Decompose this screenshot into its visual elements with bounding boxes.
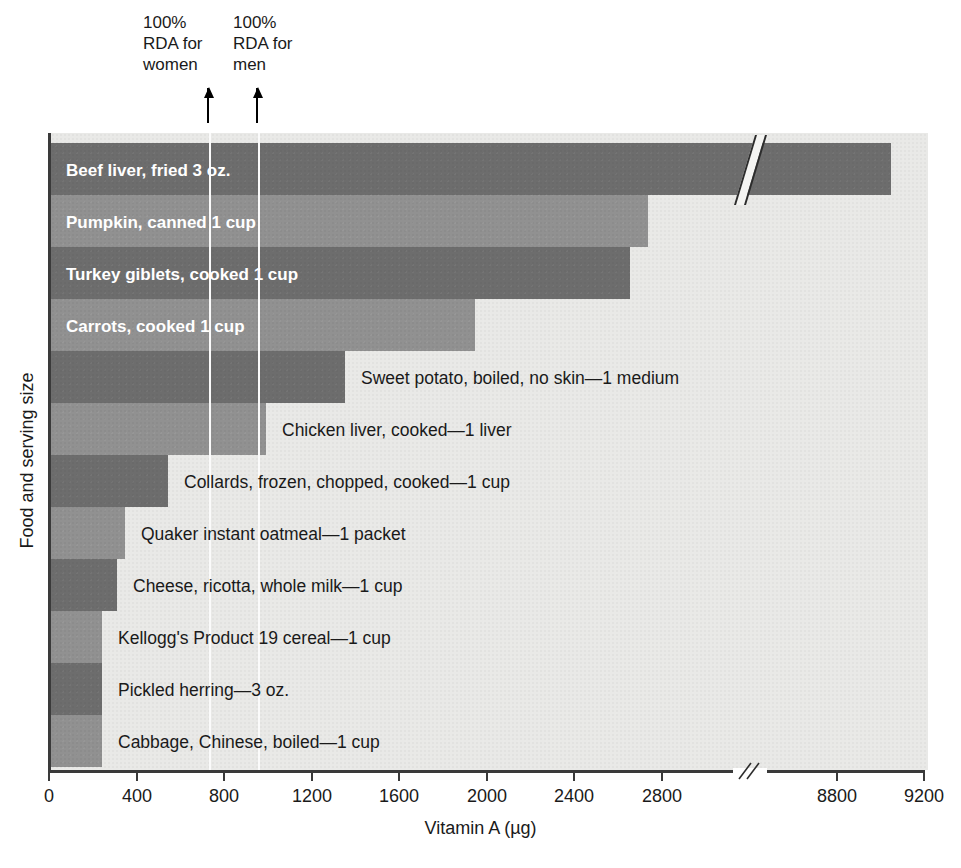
x-tick-label-2800: 2800 [642,786,682,807]
bar-sweet-potato [51,351,345,403]
bar-pickled-herring [51,663,102,715]
bar-label-pumpkin: Pumpkin, canned 1 cup [66,213,256,233]
rda-men-arrow [256,88,258,123]
bar-label-turkey-giblets: Turkey giblets, cooked 1 cup [66,265,298,285]
bar-collards [51,455,168,507]
x-tick-label-8800: 8800 [817,786,857,807]
bar-label-beef-liver: Beef liver, fried 3 oz. [66,161,230,181]
x-tick-8800 [836,770,838,781]
bar-label-ricotta-cheese: Cheese, ricotta, whole milk—1 cup [133,576,402,597]
bar-label-chicken-liver: Chicken liver, cooked—1 liver [282,420,512,441]
rda-women-arrow [207,88,209,123]
bar-ricotta-cheese [51,559,117,611]
x-axis-title: Vitamin A (µg) [0,818,961,839]
x-tick-label-1600: 1600 [379,786,419,807]
bar-label-quaker-oatmeal: Quaker instant oatmeal—1 packet [141,524,406,545]
bar-chinese-cabbage [51,715,102,767]
x-tick-label-1200: 1200 [292,786,332,807]
x-tick-2400 [573,770,575,781]
rda-women-note: 100% RDA for women [143,12,213,75]
x-tick-800 [223,770,225,781]
x-tick-1600 [398,770,400,781]
x-tick-2000 [486,770,488,781]
bar-quaker-oatmeal [51,507,125,559]
x-tick-9200 [923,770,925,781]
x-tick-label-400: 400 [122,786,152,807]
x-tick-label-2400: 2400 [554,786,594,807]
x-tick-0 [48,770,50,781]
bar-label-pickled-herring: Pickled herring—3 oz. [118,680,289,701]
x-tick-label-2000: 2000 [467,786,507,807]
x-tick-label-0: 0 [44,786,54,807]
vitamin-a-bar-chart: 100% RDA for women 100% RDA for men Beef… [0,0,961,868]
bar-chicken-liver [51,403,266,455]
bar-product-19 [51,611,102,663]
x-tick-1200 [311,770,313,781]
rda-men-guide-line [258,133,260,770]
bar-label-sweet-potato: Sweet potato, boiled, no skin—1 medium [361,368,679,389]
bar-label-collards: Collards, frozen, chopped, cooked—1 cup [184,472,510,493]
x-tick-label-9200: 9200 [904,786,944,807]
y-axis-title: Food and serving size [17,301,38,621]
bar-label-chinese-cabbage: Cabbage, Chinese, boiled—1 cup [118,732,380,753]
x-tick-400 [136,770,138,781]
x-axis-break-marker [733,760,767,782]
bar-label-product-19: Kellogg's Product 19 cereal—1 cup [118,628,391,649]
bar-label-carrots: Carrots, cooked 1 cup [66,317,245,337]
plot-area: Beef liver, fried 3 oz. Pumpkin, canned … [48,133,928,770]
x-tick-2800 [661,770,663,781]
x-tick-label-800: 800 [209,786,239,807]
rda-men-note: 100% RDA for men [233,12,303,75]
